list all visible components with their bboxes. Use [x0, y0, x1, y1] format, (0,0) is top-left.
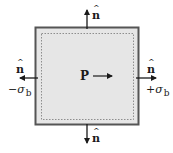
left-stress-label: −σb [8, 84, 32, 95]
top-normal-label: ^ n [92, 10, 100, 21]
stress-symbol: σ [155, 83, 163, 96]
hat-symbol: ^ [17, 58, 24, 66]
stress-subscript: b [26, 88, 32, 98]
hat-symbol: ^ [148, 58, 155, 66]
right-stress-label: +σb [146, 84, 170, 95]
bottom-normal-label: ^ n [92, 133, 100, 144]
stress-sign: + [146, 83, 155, 96]
stress-subscript: b [164, 88, 170, 98]
hat-symbol: ^ [93, 127, 100, 135]
stress-sign: − [8, 83, 17, 96]
hat-symbol: ^ [93, 4, 100, 12]
right-normal-label: ^ n [147, 64, 155, 75]
left-normal-label: ^ n [16, 64, 24, 75]
stress-symbol: σ [17, 83, 25, 96]
stress-element-diagram: ^ n ^ n ^ n ^ n −σb +σb P [0, 0, 173, 153]
point-p-label: P [80, 70, 89, 82]
